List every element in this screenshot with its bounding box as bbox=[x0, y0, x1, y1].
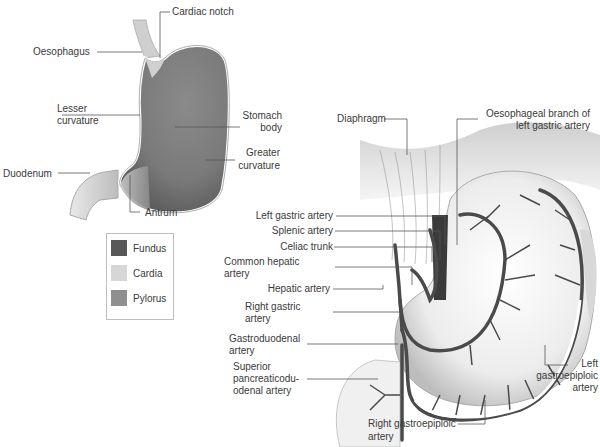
label-celiac-trunk: Celiac trunk bbox=[210, 241, 333, 253]
label-right-gastric-1: Right gastric bbox=[245, 301, 301, 313]
label-common-hepatic-1: Common hepatic bbox=[224, 256, 300, 268]
legend-item-cardia: Cardia bbox=[111, 265, 162, 281]
label-gastroduodenal-1: Gastroduodenal bbox=[229, 333, 300, 345]
label-lesser-curvature-1: Lesser bbox=[57, 103, 87, 115]
label-oesophagus: Oesophagus bbox=[33, 46, 90, 58]
stomach-anatomy-diagram bbox=[0, 0, 600, 447]
legend-label-cardia: Cardia bbox=[133, 268, 162, 279]
label-left-gastroepiploic-1: Left bbox=[540, 358, 598, 370]
label-right-gastroepiploic-1: Right gastroepiploic bbox=[368, 418, 456, 430]
legend-swatch-pylorus bbox=[111, 290, 127, 306]
label-sup-pancreatico-2: pancreaticodu- bbox=[233, 373, 299, 385]
label-antrum: Antrum bbox=[145, 207, 177, 219]
label-splenic-artery: Splenic artery bbox=[210, 225, 333, 237]
label-greater-curvature-1: Greater bbox=[235, 147, 280, 159]
label-sup-pancreatico-1: Superior bbox=[233, 361, 271, 373]
label-greater-curvature-2: curvature bbox=[230, 160, 280, 172]
label-stomach-body-1: Stomach bbox=[242, 110, 282, 122]
label-lesser-curvature-2: curvature bbox=[57, 115, 99, 127]
label-cardiac-notch: Cardiac notch bbox=[172, 6, 234, 18]
label-gastroduodenal-2: artery bbox=[229, 345, 255, 357]
legend-item-pylorus: Pylorus bbox=[111, 290, 166, 306]
label-stomach-body-2: body bbox=[242, 122, 282, 134]
arterial-illustration bbox=[336, 122, 600, 447]
label-duodenum: Duodenum bbox=[3, 168, 52, 180]
label-diaphragm: Diaphragm bbox=[337, 113, 386, 125]
label-left-gastroepiploic-2: gastroepiploic bbox=[520, 370, 598, 382]
legend-swatch-fundus bbox=[111, 240, 127, 256]
label-left-gastric-artery: Left gastric artery bbox=[210, 210, 333, 222]
label-left-gastroepiploic-3: artery bbox=[540, 382, 598, 394]
label-common-hepatic-2: artery bbox=[224, 268, 250, 280]
label-right-gastric-2: artery bbox=[245, 313, 271, 325]
legend-label-fundus: Fundus bbox=[133, 243, 166, 254]
legend-item-fundus: Fundus bbox=[111, 240, 166, 256]
legend-label-pylorus: Pylorus bbox=[133, 293, 166, 304]
legend-swatch-cardia bbox=[111, 265, 127, 281]
label-sup-pancreatico-3: odenal artery bbox=[233, 385, 291, 397]
label-hepatic-artery: Hepatic artery bbox=[210, 283, 330, 295]
label-right-gastroepiploic-2: artery bbox=[368, 431, 394, 443]
legend: Fundus Cardia Pylorus bbox=[106, 233, 174, 320]
label-oesophageal-branch-2: left gastric artery bbox=[470, 120, 590, 132]
label-oesophageal-branch-1: Oesophageal branch of bbox=[470, 108, 590, 120]
